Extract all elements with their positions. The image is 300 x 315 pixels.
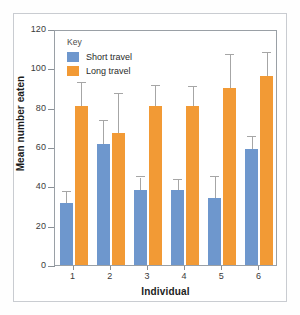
- y-axis-tick-label: 0: [2, 260, 46, 270]
- error-bar-cap: [262, 52, 271, 53]
- legend-label-long-travel: Long travel: [86, 66, 131, 76]
- bar-short-travel-5: [208, 198, 221, 265]
- error-bar-cap: [114, 93, 123, 94]
- x-axis-tick-label: 4: [174, 271, 194, 281]
- bar-long-travel-6: [260, 76, 273, 265]
- error-bar-cap: [247, 136, 256, 137]
- x-axis-tick: [184, 266, 185, 270]
- bar-short-travel-6: [245, 149, 258, 265]
- y-axis-tick-label: 120: [2, 24, 46, 34]
- bar-short-travel-1: [60, 203, 73, 265]
- x-axis-title: Individual: [54, 286, 277, 297]
- error-bar-cap: [136, 176, 145, 177]
- x-axis-tick: [147, 266, 148, 270]
- y-axis-tick-label: 20: [2, 221, 46, 231]
- legend-label-short-travel: Short travel: [86, 52, 132, 62]
- x-axis-tick: [73, 266, 74, 270]
- error-bar-cap: [99, 120, 108, 121]
- error-bar-line: [215, 177, 216, 199]
- x-axis-tick: [110, 266, 111, 270]
- bar-long-travel-5: [223, 88, 236, 265]
- x-axis-tick: [258, 266, 259, 270]
- legend-item-short-travel: Short travel: [67, 52, 163, 62]
- error-bar-line: [103, 121, 104, 144]
- error-bar-line: [118, 94, 119, 133]
- bar-long-travel-3: [149, 106, 162, 265]
- legend: Key Short travel Long travel: [67, 37, 163, 80]
- error-bar-line: [155, 86, 156, 106]
- error-bar-line: [267, 53, 268, 77]
- x-axis-tick-label: 3: [137, 271, 157, 281]
- legend-item-long-travel: Long travel: [67, 66, 163, 76]
- plot-area: Key Short travel Long travel: [54, 30, 277, 266]
- bar-long-travel-4: [186, 106, 199, 265]
- error-bar-cap: [210, 176, 219, 177]
- error-bar-cap: [173, 179, 182, 180]
- bar-long-travel-2: [112, 133, 125, 265]
- legend-title: Key: [67, 37, 163, 47]
- error-bar-cap: [77, 82, 86, 83]
- error-bar-line: [178, 180, 179, 190]
- x-axis-tick-label: 1: [63, 271, 83, 281]
- error-bar-line: [230, 55, 231, 88]
- x-axis-tick: [221, 266, 222, 270]
- error-bar-line: [81, 83, 82, 106]
- error-bar-line: [140, 178, 141, 191]
- error-bar-cap: [62, 191, 71, 192]
- error-bar-cap: [151, 85, 160, 86]
- y-axis-title: Mean number eaten: [15, 64, 26, 184]
- error-bar-cap: [225, 54, 234, 55]
- bar-long-travel-1: [75, 106, 88, 265]
- x-axis-tick-label: 2: [100, 271, 120, 281]
- figure-container: 020406080100120 Mean number eaten Key Sh…: [0, 0, 300, 315]
- error-bar-line: [252, 137, 253, 149]
- bar-short-travel-2: [97, 144, 110, 265]
- bar-short-travel-4: [171, 190, 184, 265]
- bar-short-travel-3: [134, 190, 147, 265]
- error-bar-cap: [188, 86, 197, 87]
- legend-swatch-short-travel: [67, 52, 79, 62]
- x-axis-tick-label: 5: [211, 271, 231, 281]
- x-axis-tick-label: 6: [248, 271, 268, 281]
- error-bar-line: [193, 87, 194, 106]
- legend-swatch-long-travel: [67, 66, 79, 76]
- error-bar-line: [66, 192, 67, 203]
